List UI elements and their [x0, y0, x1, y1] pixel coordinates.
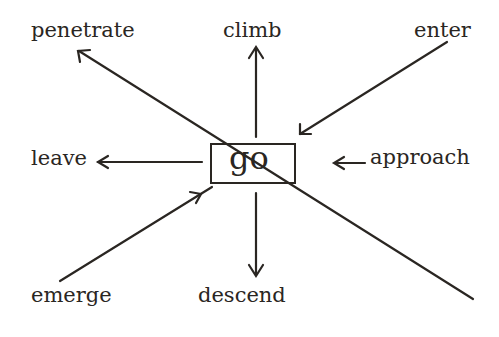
enter-arrow-line — [300, 42, 447, 134]
label-emerge: emerge — [31, 285, 112, 306]
label-enter: enter — [414, 20, 471, 41]
go-verbs-diagram: go penetrate climb enter leave approach … — [0, 0, 499, 337]
emerge-arrow-line — [60, 187, 212, 281]
label-penetrate: penetrate — [31, 20, 135, 41]
label-descend: descend — [198, 285, 286, 306]
center-label: go — [229, 142, 269, 174]
label-approach: approach — [370, 147, 470, 168]
label-leave: leave — [31, 148, 87, 169]
label-climb: climb — [223, 20, 282, 41]
